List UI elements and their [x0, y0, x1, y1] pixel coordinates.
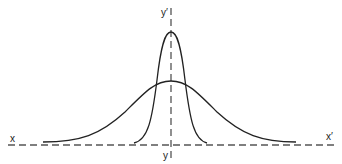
- wide-bell-curve: [43, 81, 296, 142]
- y-bottom-label: y: [163, 151, 168, 161]
- y-top-label: y′: [161, 8, 168, 18]
- bell-curves-diagram: [0, 0, 342, 164]
- x-right-label: x′: [326, 132, 333, 142]
- x-left-label: x: [10, 134, 15, 144]
